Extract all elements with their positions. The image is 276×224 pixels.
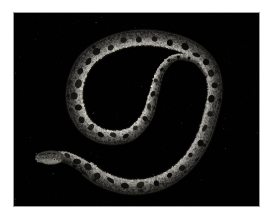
snake-photo-canvas (14, 13, 259, 206)
snake-photograph (13, 12, 260, 207)
photo-page (0, 0, 276, 224)
photo-caption (13, 209, 260, 221)
